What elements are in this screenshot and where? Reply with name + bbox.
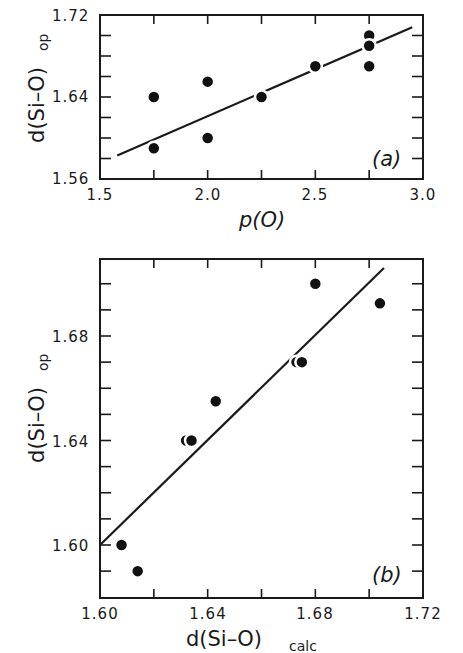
data-point bbox=[309, 277, 322, 290]
panel-a-x-axis-label: p(O) bbox=[238, 208, 285, 232]
data-point bbox=[363, 39, 376, 52]
data-point bbox=[209, 395, 222, 408]
data-point bbox=[373, 297, 386, 310]
svg-text:op: op bbox=[35, 33, 51, 51]
panel-a-x-tick-2.0: 2.0 bbox=[195, 186, 222, 204]
panel-a-y-tick-1.56: 1.56 bbox=[52, 170, 89, 188]
panel-a-y-tick-1.64: 1.64 bbox=[52, 88, 89, 106]
panel-b-x-tick-1.60: 1.60 bbox=[81, 605, 118, 623]
figure: 1.72 1.64 1.56 1.5 2.0 2.5 3.0 d(Si–O) o… bbox=[0, 0, 463, 653]
data-point bbox=[115, 539, 128, 552]
svg-text:op: op bbox=[35, 353, 51, 371]
panel-b-y-axis-label: d(Si–O) op bbox=[25, 353, 51, 463]
panel-b-x-axis-label: d(Si–O) calc bbox=[186, 627, 317, 653]
panel-b-x-tick-1.72: 1.72 bbox=[404, 605, 441, 623]
data-point bbox=[255, 91, 268, 104]
panel-a-chart: 1.72 1.64 1.56 1.5 2.0 2.5 3.0 d(Si–O) o… bbox=[25, 7, 436, 232]
panel-b-y-tick-1.60: 1.60 bbox=[52, 537, 89, 555]
data-point bbox=[295, 356, 308, 369]
svg-text:d(Si–O): d(Si–O) bbox=[25, 67, 49, 143]
panel-b-x-tick-1.68: 1.68 bbox=[296, 605, 333, 623]
data-point bbox=[131, 565, 144, 578]
panel-a-y-tick-1.72: 1.72 bbox=[52, 7, 89, 25]
panel-b-y-tick-1.68: 1.68 bbox=[52, 328, 89, 346]
svg-text:d(Si–O): d(Si–O) bbox=[25, 387, 49, 463]
panel-a-x-tick-3.0: 3.0 bbox=[410, 186, 437, 204]
panel-a-x-tick-2.5: 2.5 bbox=[302, 186, 329, 204]
svg-text:calc: calc bbox=[289, 638, 317, 653]
regression-line bbox=[100, 268, 384, 545]
panel-a-data-points bbox=[147, 29, 375, 155]
data-point bbox=[201, 75, 214, 88]
data-point bbox=[147, 91, 160, 104]
panel-a-y-axis-label: d(Si–O) op bbox=[25, 33, 51, 143]
panel-b-label: (b) bbox=[372, 563, 402, 587]
panel-a-label: (a) bbox=[372, 147, 401, 171]
panel-b-x-tick-1.64: 1.64 bbox=[189, 605, 226, 623]
panel-a-x-tick-1.5: 1.5 bbox=[87, 186, 114, 204]
panel-b-y-tick-1.64: 1.64 bbox=[52, 433, 89, 451]
panel-b-ticks bbox=[100, 259, 423, 598]
panel-b-data-points bbox=[115, 277, 386, 577]
data-point bbox=[147, 142, 160, 155]
panel-b-chart: 1.68 1.64 1.60 1.60 1.64 1.68 1.72 d(Si–… bbox=[25, 259, 442, 653]
panel-b-frame bbox=[100, 259, 423, 598]
panel-b-fit-line bbox=[100, 268, 384, 545]
svg-text:d(Si–O): d(Si–O) bbox=[186, 627, 262, 651]
data-point bbox=[185, 434, 198, 447]
data-point bbox=[201, 132, 214, 145]
data-point bbox=[309, 60, 322, 73]
data-point bbox=[363, 60, 376, 73]
